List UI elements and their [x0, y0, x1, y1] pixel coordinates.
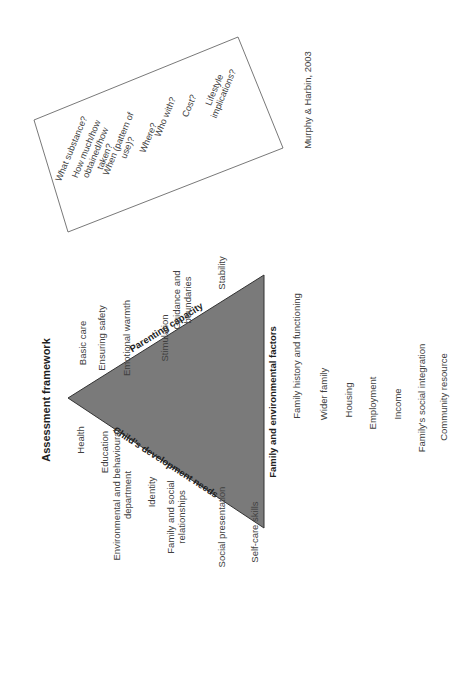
- family-factor-item: Family's social integration: [416, 344, 427, 452]
- diagram-title: Assessment framework: [40, 337, 52, 461]
- child-need-item-line: Environmental and behavioural: [111, 430, 122, 561]
- family-environmental-factors-list: Family history and functioningWider fami…: [291, 293, 449, 452]
- child-need-item-line: Health: [75, 426, 86, 453]
- parenting-capacity-item: Stimulation: [159, 315, 170, 362]
- parenting-capacity-item: Emotional warmth: [121, 300, 132, 376]
- parenting-capacity-item-line: Guidance and: [171, 270, 182, 329]
- family-factor-item: Housing: [343, 383, 354, 418]
- parenting-capacity-item: Stability: [216, 256, 227, 290]
- family-factor-item: Community resource: [438, 353, 449, 441]
- family-factor-item-line: Employment: [367, 376, 378, 429]
- parenting-capacity-item: Ensuring safety: [96, 305, 107, 371]
- child-need-item: Family and socialrelationships: [165, 480, 187, 553]
- child-need-item: Social presentation: [216, 487, 227, 568]
- citation: Murphy & Harbin, 2003: [302, 51, 313, 149]
- family-factor-item-line: Family's social integration: [416, 344, 427, 452]
- child-need-item-line: Family and social: [165, 480, 176, 553]
- child-need-item: Self-care skills: [249, 501, 260, 562]
- parenting-capacity-item-line: Stimulation: [159, 315, 170, 362]
- child-need-item: Health: [75, 426, 86, 453]
- family-factor-item-line: Income: [392, 388, 403, 419]
- child-need-item-line: Social presentation: [216, 487, 227, 568]
- family-factor-item-line: Wider family: [318, 368, 329, 421]
- parenting-capacity-item-line: Ensuring safety: [96, 305, 107, 371]
- assessment-framework-diagram: Assessment framework Parenting capacity …: [0, 0, 456, 677]
- family-factor-item-line: Housing: [343, 383, 354, 418]
- parenting-capacity-item-line: Stability: [216, 256, 227, 290]
- child-need-item-line: department: [122, 471, 133, 519]
- parenting-capacity-item-line: boundaries: [182, 276, 193, 323]
- parenting-capacity-item: Basic care: [77, 321, 88, 365]
- child-need-item: Identity: [146, 476, 157, 507]
- family-factor-item: Wider family: [318, 368, 329, 421]
- child-need-item: Environmental and behaviouraldepartment: [111, 430, 133, 561]
- family-factor-item-line: Family history and functioning: [291, 293, 302, 419]
- child-need-item: Education: [99, 431, 110, 473]
- child-need-item-line: Self-care skills: [249, 501, 260, 562]
- side-label-family-environmental-factors: Family and environmental factors: [267, 326, 278, 478]
- parenting-capacity-item-line: Basic care: [77, 321, 88, 365]
- family-factor-item-line: Community resource: [438, 353, 449, 441]
- child-need-item-line: Education: [99, 431, 110, 473]
- parenting-capacity-item-line: Emotional warmth: [121, 300, 132, 376]
- child-need-item-line: relationships: [176, 490, 187, 544]
- child-need-item-line: Identity: [146, 476, 157, 507]
- family-factor-item: Family history and functioning: [291, 293, 302, 419]
- family-factor-item: Income: [392, 388, 403, 419]
- parenting-capacity-item: Guidance andboundaries: [171, 270, 193, 329]
- family-factor-item: Employment: [367, 376, 378, 429]
